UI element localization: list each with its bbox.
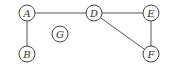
nodes: ABGDEF xyxy=(19,5,159,62)
node-a: A xyxy=(19,5,35,21)
node-label: A xyxy=(22,8,30,19)
node-b: B xyxy=(19,46,35,62)
node-label: F xyxy=(147,49,156,60)
node-label: B xyxy=(22,49,30,60)
edge-d-f xyxy=(94,13,151,54)
node-label: D xyxy=(89,8,98,19)
node-f: F xyxy=(143,46,159,62)
graph-diagram: ABGDEF xyxy=(0,0,171,70)
node-e: E xyxy=(143,5,159,21)
node-g: G xyxy=(52,26,68,42)
node-label: E xyxy=(146,8,155,19)
node-label: G xyxy=(56,29,64,40)
node-d: D xyxy=(86,5,102,21)
